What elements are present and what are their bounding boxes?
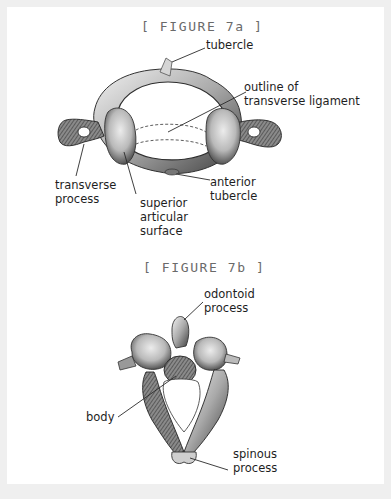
axis-vertebra [118, 317, 240, 464]
label-transverse-process: transverse process [55, 178, 116, 206]
label-superior-articular-surface: superior articular surface [140, 196, 188, 238]
label-anterior-tubercle: anterior tubercle [210, 175, 257, 203]
label-body: body [86, 410, 114, 424]
label-odontoid-process: odontoid process [204, 287, 255, 315]
figure-7b-caption: [ FIGURE 7b ] [143, 260, 266, 275]
label-spinous-process: spinous process [233, 447, 277, 475]
atlas-vertebra-illustration [0, 0, 391, 499]
label-tubercle: tubercle [206, 38, 253, 52]
atlas-ring [58, 58, 281, 175]
label-transverse-ligament: outline of transverse ligament [244, 80, 360, 108]
